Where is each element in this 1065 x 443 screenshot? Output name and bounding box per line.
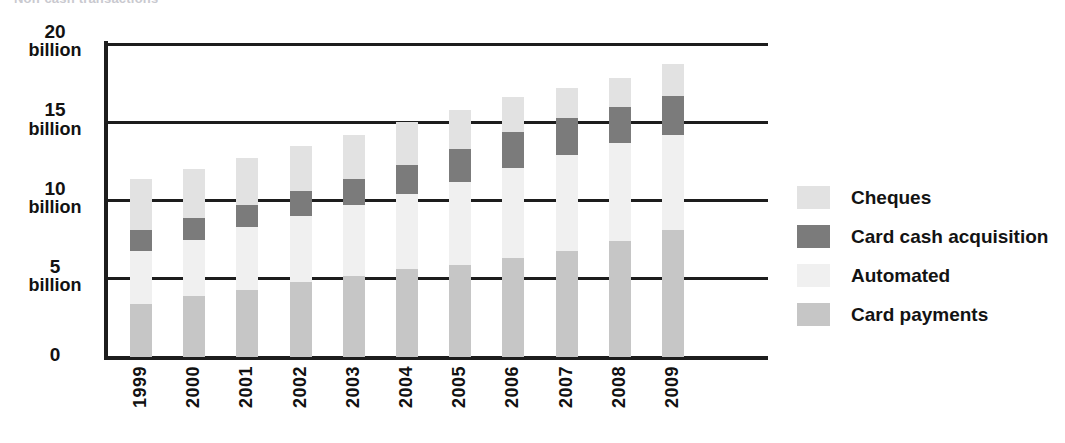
- bar-2004: [396, 122, 418, 357]
- bar-segment-card-payments-2008: [609, 241, 631, 357]
- bar-segment-cheques-2003: [343, 135, 365, 179]
- bar-1999: [130, 179, 152, 357]
- bar-segment-card-payments-2002: [290, 282, 312, 357]
- bar-segment-card-payments-2000: [183, 296, 205, 357]
- legend-item-card-payments[interactable]: Card payments: [797, 295, 1059, 334]
- bar-segment-card-cash-acquisition-2008: [609, 107, 631, 143]
- legend-swatch-icon: [797, 264, 830, 287]
- bar-2006: [502, 97, 524, 357]
- bar-segment-cheques-2002: [290, 146, 312, 191]
- bar-2007: [556, 88, 578, 357]
- bar-segment-automated-1999: [130, 251, 152, 304]
- legend-item-card-cash-acquisition[interactable]: Card cash acquisition: [797, 217, 1059, 256]
- legend-swatch-icon: [797, 225, 830, 248]
- bar-segment-automated-2008: [609, 143, 631, 242]
- legend-swatch-icon: [797, 186, 830, 209]
- x-tick-label-2009: 2009: [662, 366, 684, 408]
- legend-label: Cheques: [851, 187, 931, 209]
- legend-label: Automated: [851, 265, 950, 287]
- bar-2008: [609, 78, 631, 357]
- bar-segment-automated-2006: [502, 168, 524, 259]
- y-tick-unit: billion: [12, 120, 98, 138]
- bar-2009: [662, 64, 684, 357]
- bar-segment-automated-2003: [343, 205, 365, 275]
- bar-segment-cheques-2001: [236, 158, 258, 205]
- bar-segment-card-cash-acquisition-2004: [396, 165, 418, 195]
- bar-segment-card-cash-acquisition-2003: [343, 179, 365, 206]
- bar-segment-automated-2000: [183, 240, 205, 296]
- bar-segment-cheques-2005: [449, 110, 471, 149]
- x-tick-label-1999: 1999: [130, 366, 152, 408]
- y-tick-value: 10: [12, 179, 98, 198]
- y-axis-tick-labels: 05billion10billion15billion20billion: [8, 0, 98, 443]
- bar-segment-card-cash-acquisition-1999: [130, 230, 152, 250]
- bar-segment-cheques-2009: [662, 64, 684, 95]
- bar-2001: [236, 158, 258, 357]
- bar-2000: [183, 169, 205, 357]
- x-tick-label-2008: 2008: [609, 366, 631, 408]
- legend-label: Card cash acquisition: [851, 226, 1048, 248]
- bar-2002: [290, 146, 312, 357]
- chart-page: Non-cash transactions 05billion10billion…: [0, 0, 1065, 443]
- bar-segment-card-payments-2009: [662, 230, 684, 357]
- y-tick-value: 20: [12, 22, 98, 41]
- bar-segment-automated-2002: [290, 216, 312, 282]
- bar-segment-card-cash-acquisition-2000: [183, 218, 205, 240]
- y-tick-label-5: 5billion: [12, 257, 98, 295]
- bar-segment-card-cash-acquisition-2009: [662, 96, 684, 135]
- bar-segment-cheques-2007: [556, 88, 578, 118]
- y-tick-value: 0: [12, 345, 98, 364]
- bar-segment-automated-2004: [396, 194, 418, 269]
- x-tick-label-2000: 2000: [183, 366, 205, 408]
- x-tick-label-2005: 2005: [449, 366, 471, 408]
- bar-segment-card-cash-acquisition-2007: [556, 118, 578, 156]
- chart-legend: ChequesCard cash acquisitionAutomatedCar…: [797, 178, 1059, 334]
- bar-segment-card-payments-2007: [556, 251, 578, 357]
- bar-segment-cheques-2004: [396, 122, 418, 164]
- y-tick-label-0: 0: [12, 345, 98, 364]
- legend-swatch-icon: [797, 303, 830, 326]
- bar-2003: [343, 135, 365, 357]
- bar-segment-card-payments-2004: [396, 269, 418, 357]
- bar-segment-card-cash-acquisition-2001: [236, 205, 258, 227]
- bar-segment-card-cash-acquisition-2005: [449, 149, 471, 182]
- x-tick-label-2001: 2001: [236, 366, 258, 408]
- y-tick-label-15: 15billion: [12, 100, 98, 138]
- x-tick-label-2006: 2006: [502, 366, 524, 408]
- bar-segment-automated-2001: [236, 227, 258, 290]
- x-tick-label-2007: 2007: [556, 366, 578, 408]
- x-tick-label-2002: 2002: [290, 366, 312, 408]
- bar-segment-card-payments-2001: [236, 290, 258, 357]
- y-tick-label-10: 10billion: [12, 179, 98, 217]
- bar-2005: [449, 110, 471, 357]
- bar-segment-card-payments-1999: [130, 304, 152, 357]
- bar-segment-card-payments-2006: [502, 258, 524, 357]
- legend-label: Card payments: [851, 304, 988, 326]
- bar-segment-card-payments-2003: [343, 276, 365, 357]
- bar-segment-card-cash-acquisition-2006: [502, 132, 524, 168]
- bar-segment-cheques-2008: [609, 78, 631, 106]
- bar-segment-automated-2005: [449, 182, 471, 265]
- gridline-20: [104, 43, 768, 46]
- bar-segment-automated-2007: [556, 155, 578, 250]
- y-tick-unit: billion: [12, 41, 98, 59]
- y-tick-unit: billion: [12, 198, 98, 216]
- x-tick-label-2003: 2003: [343, 366, 365, 408]
- bar-segment-automated-2009: [662, 135, 684, 230]
- x-tick-label-2004: 2004: [396, 366, 418, 408]
- y-tick-unit: billion: [12, 276, 98, 294]
- y-tick-value: 5: [12, 257, 98, 276]
- bar-segment-cheques-2000: [183, 169, 205, 218]
- bar-segment-card-payments-2005: [449, 265, 471, 357]
- legend-item-cheques[interactable]: Cheques: [797, 178, 1059, 217]
- y-tick-label-20: 20billion: [12, 22, 98, 60]
- bar-segment-card-cash-acquisition-2002: [290, 191, 312, 216]
- bar-segment-cheques-2006: [502, 97, 524, 131]
- y-tick-value: 15: [12, 100, 98, 119]
- legend-item-automated[interactable]: Automated: [797, 256, 1059, 295]
- bar-segment-cheques-1999: [130, 179, 152, 231]
